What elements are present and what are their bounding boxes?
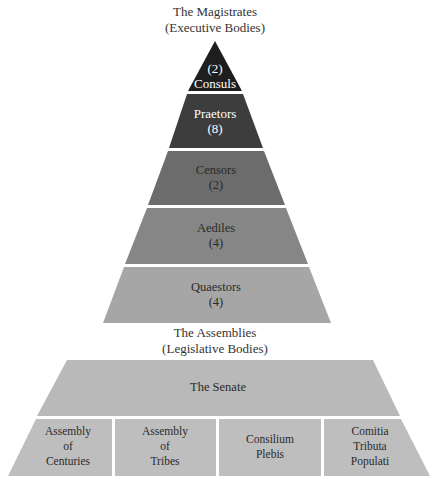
assemblies-heading-subtitle: (Legislative Bodies) [162,341,268,357]
magistrates-heading: The Magistrates (Executive Bodies) [165,4,265,36]
consilium-plebis-label: Consilium Plebis [246,432,294,462]
assemblies-heading: The Assemblies (Legislative Bodies) [162,325,268,357]
assemblies-heading-title: The Assemblies [162,325,268,341]
assembly-of-centuries-label: Assembly of Centuries [45,424,91,469]
assembly-of-tribes-label: Assembly of Tribes [142,424,188,469]
comitia-tributa-populati-label: Comitia Tributa Populati [351,424,389,469]
magistrates-heading-subtitle: (Executive Bodies) [165,20,265,36]
magistrates-heading-title: The Magistrates [165,4,265,20]
senate-label: The Senate [190,380,246,395]
praetors-label: Praetors (8) [194,106,237,136]
aediles-label: Aediles (4) [197,221,235,251]
censors-label: Censors (2) [196,163,236,193]
consuls-label: (2) Consuls [194,61,236,91]
quaestors-label: Quaestors (4) [191,280,241,310]
